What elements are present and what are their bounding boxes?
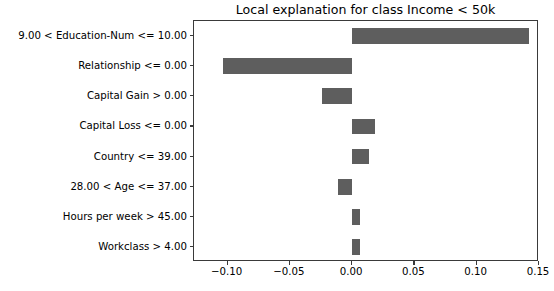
- bar-row: [194, 239, 537, 255]
- y-axis-tick-mark: [190, 125, 194, 126]
- y-axis-tick-label: Workclass > 4.00: [98, 240, 187, 251]
- bar: [338, 179, 352, 195]
- chart-figure: Local explanation for class Income < 50k…: [0, 0, 554, 291]
- y-axis-tick-label: Country <= 39.00: [94, 150, 187, 161]
- bar-row: [194, 119, 537, 135]
- bar: [352, 239, 360, 255]
- y-axis-tick-mark: [190, 35, 194, 36]
- bar-row: [194, 149, 537, 165]
- bar-row: [194, 88, 537, 104]
- plot-area: [193, 20, 538, 261]
- x-axis-tick-label: 0.00: [340, 266, 363, 277]
- y-axis-tick-mark: [190, 246, 194, 247]
- bars-layer: [194, 21, 537, 260]
- chart-title: Local explanation for class Income < 50k: [193, 2, 538, 17]
- x-axis-tick-mark: [227, 261, 228, 265]
- bar: [352, 209, 360, 225]
- bar: [352, 119, 375, 135]
- x-axis-tick-mark: [351, 261, 352, 265]
- bar: [223, 58, 352, 74]
- bar: [352, 28, 529, 44]
- y-axis-tick-mark: [190, 156, 194, 157]
- bar: [322, 88, 352, 104]
- y-axis-tick-label: Capital Gain > 0.00: [87, 90, 187, 101]
- bar: [352, 149, 369, 165]
- x-axis-tick-label: −0.10: [211, 266, 242, 277]
- x-axis-tick-mark: [476, 261, 477, 265]
- bar-row: [194, 209, 537, 225]
- y-axis-tick-mark: [190, 216, 194, 217]
- x-axis-tick-mark: [538, 261, 539, 265]
- y-axis-tick-mark: [190, 65, 194, 66]
- y-axis-tick-labels: 9.00 < Education-Num <= 10.00Relationshi…: [0, 20, 187, 261]
- x-axis-tick-label: 0.10: [464, 266, 487, 277]
- x-axis-tick-label: 0.05: [402, 266, 425, 277]
- y-axis-tick-mark: [190, 186, 194, 187]
- x-axis-tick-mark: [413, 261, 414, 265]
- bar-row: [194, 179, 537, 195]
- bar-row: [194, 58, 537, 74]
- bar-row: [194, 28, 537, 44]
- y-axis-tick-label: Hours per week > 45.00: [63, 210, 187, 221]
- y-axis-tick-mark: [190, 95, 194, 96]
- x-axis-tick-mark: [289, 261, 290, 265]
- x-axis-tick-label: 0.15: [527, 266, 550, 277]
- y-axis-tick-label: 28.00 < Age <= 37.00: [70, 180, 187, 191]
- y-axis-tick-label: Capital Loss <= 0.00: [79, 120, 187, 131]
- x-axis-tick-label: −0.05: [273, 266, 304, 277]
- y-axis-tick-label: 9.00 < Education-Num <= 10.00: [18, 30, 187, 41]
- y-axis-tick-label: Relationship <= 0.00: [78, 60, 187, 71]
